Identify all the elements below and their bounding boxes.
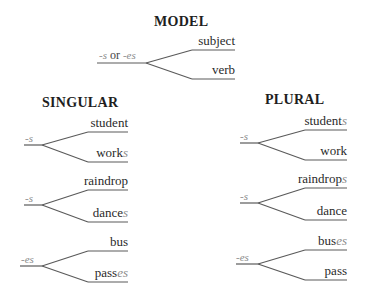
singular-3-stem: -es [21,253,34,265]
plural-title: PLURAL [265,92,324,108]
singular-2-upper: raindrop [84,174,128,188]
plural-2-stem: -s [240,190,248,202]
plural-2-lower: dance [317,204,347,218]
model-lower-label: verb [212,63,235,77]
singular-title: SINGULAR [42,95,118,111]
plural-3-upper: buses [318,234,347,248]
model-stem-label: -s or -es [99,49,136,61]
plural-2-upper: raindrops [298,172,347,186]
plural-1-stem: -s [240,130,248,142]
singular-3-lower: passes [95,266,128,280]
plural-1-lower: work [320,144,347,158]
singular-1-upper: student [90,116,128,130]
plural-1-upper: students [304,114,347,128]
plural-3-lower: pass [325,264,347,278]
model-title: MODEL [154,14,208,30]
singular-2-stem: -s [25,192,33,204]
diagram-lines [0,0,371,300]
model-stem-es: -es [123,49,136,61]
model-stem-or: or [107,48,123,62]
singular-3-upper: bus [110,235,128,249]
model-stem-s: -s [99,49,107,61]
plural-3-stem: -es [236,251,249,263]
model-upper-label: subject [198,34,235,48]
singular-2-lower: dances [93,206,128,220]
singular-1-lower: works [96,146,128,160]
singular-1-stem: -s [25,132,33,144]
